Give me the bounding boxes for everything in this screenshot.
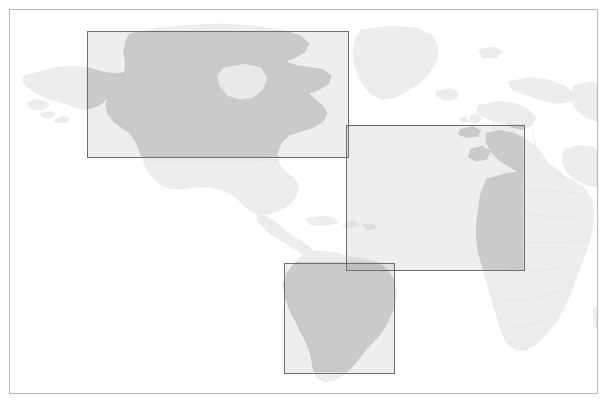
south-america-extent[interactable]: South America [284, 263, 395, 374]
north-america-extent[interactable]: North America [87, 31, 349, 158]
europe-africa-extent[interactable]: Europe / West Africa [346, 125, 525, 271]
figure-stage: North America Europe / West Africa South… [0, 0, 608, 406]
map-frame: North America Europe / West Africa South… [9, 9, 598, 394]
